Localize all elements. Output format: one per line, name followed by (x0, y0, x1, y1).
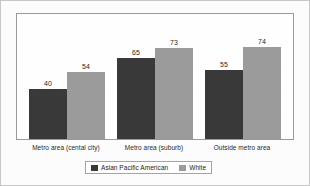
legend-label: White (189, 164, 206, 171)
chart-figure: 405465735574 Metro area (cental city)Met… (0, 0, 310, 186)
bar-column: 54 (67, 14, 105, 139)
plot-area: 405465735574 (17, 14, 293, 139)
bar-group: 4054 (29, 14, 105, 139)
legend-item: Asian Pacific American (91, 164, 168, 171)
legend-label: Asian Pacific American (101, 164, 168, 171)
legend-swatch-dark-icon (91, 165, 98, 171)
plot-frame: 405465735574 (16, 13, 294, 140)
bar (117, 58, 155, 139)
bar-column: 73 (155, 14, 193, 139)
bar-value-label: 54 (67, 63, 105, 70)
bar (205, 70, 243, 139)
bar (67, 72, 105, 140)
chart-legend: Asian Pacific AmericanWhite (85, 161, 212, 174)
bar-group: 5574 (205, 14, 281, 139)
legend-swatch-light-icon (179, 165, 186, 171)
bar-value-label: 40 (29, 80, 67, 87)
bar (155, 48, 193, 139)
bar-column: 40 (29, 14, 67, 139)
bar-value-label: 55 (205, 61, 243, 68)
bar (29, 89, 67, 139)
legend-item: White (179, 164, 206, 171)
bar-value-label: 74 (243, 38, 281, 45)
bar-column: 74 (243, 14, 281, 139)
bar (243, 47, 281, 140)
bar-group: 6573 (117, 14, 193, 139)
bar-value-label: 73 (155, 39, 193, 46)
bar-value-label: 65 (117, 49, 155, 56)
category-label: Outside metro area (182, 144, 302, 151)
bar-column: 65 (117, 14, 155, 139)
bar-column: 55 (205, 14, 243, 139)
